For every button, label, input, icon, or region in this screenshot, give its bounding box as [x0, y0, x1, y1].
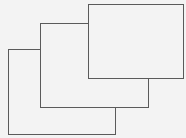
- front-rectangle: [88, 4, 184, 79]
